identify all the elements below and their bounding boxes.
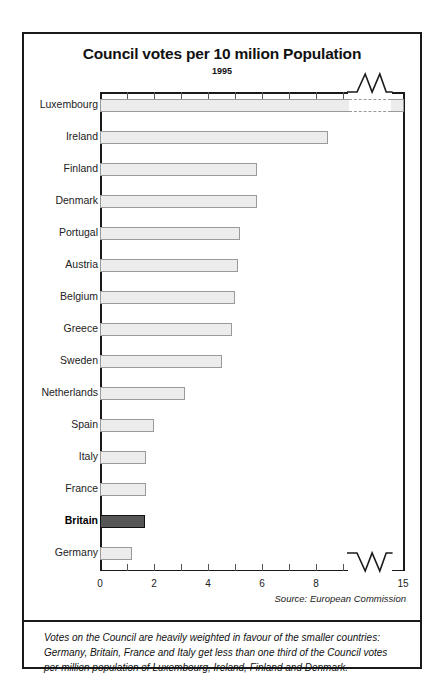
category-label-sweden: Sweden bbox=[0, 354, 98, 366]
plot-area: LuxembourgIrelandFinlandDenmarkPortugalA… bbox=[100, 92, 404, 571]
x-axis-tick bbox=[316, 564, 317, 571]
chart-figure: Council votes per 10 milion Population 1… bbox=[22, 32, 422, 669]
x-axis-tick bbox=[235, 564, 236, 571]
x-axis-tick-label: 15 bbox=[388, 578, 418, 589]
x-axis-tick bbox=[289, 564, 290, 571]
x-axis-tick bbox=[343, 564, 344, 571]
category-label-portugal: Portugal bbox=[0, 226, 98, 238]
x-axis-tick bbox=[262, 564, 263, 571]
chart-title: Council votes per 10 milion Population bbox=[24, 45, 420, 63]
category-label-britain: Britain bbox=[0, 514, 98, 526]
bar-austria bbox=[100, 259, 238, 272]
bar-luxembourg bbox=[100, 99, 349, 112]
x-axis-tick-label: 4 bbox=[193, 578, 223, 589]
category-label-austria: Austria bbox=[0, 258, 98, 270]
axis-break-top-icon bbox=[347, 73, 393, 93]
bar-sweden bbox=[100, 355, 222, 368]
x-axis-tick bbox=[154, 564, 155, 571]
axis-right-edge bbox=[403, 92, 405, 571]
bar-denmark bbox=[100, 195, 257, 208]
category-label-greece: Greece bbox=[0, 322, 98, 334]
bar-france bbox=[100, 483, 146, 496]
x-axis-tick bbox=[127, 564, 128, 571]
bar-netherlands bbox=[100, 387, 185, 400]
category-label-italy: Italy bbox=[0, 450, 98, 462]
source-note: Source: European Commission bbox=[275, 593, 406, 604]
bar-britain bbox=[100, 515, 145, 528]
x-axis-top-line bbox=[100, 92, 348, 94]
category-label-luxembourg: Luxembourg bbox=[0, 98, 98, 110]
bar-spain bbox=[100, 419, 154, 432]
category-label-denmark: Denmark bbox=[0, 194, 98, 206]
x-axis-tick-label: 2 bbox=[139, 578, 169, 589]
bar-belgium bbox=[100, 291, 235, 304]
x-axis-tick-label: 0 bbox=[85, 578, 115, 589]
bar-italy bbox=[100, 451, 146, 464]
x-axis-tick-label: 6 bbox=[247, 578, 277, 589]
bar-luxembourg-continued bbox=[391, 99, 404, 112]
category-label-ireland: Ireland bbox=[0, 130, 98, 142]
bar-ireland bbox=[100, 131, 328, 144]
x-axis-tick bbox=[181, 564, 182, 571]
category-label-germany: Germany bbox=[0, 546, 98, 558]
caption-text: Votes on the Council are heavily weighte… bbox=[44, 630, 404, 676]
x-axis-bottom-line bbox=[100, 570, 348, 572]
x-axis-tick bbox=[208, 564, 209, 571]
category-label-finland: Finland bbox=[0, 162, 98, 174]
category-label-spain: Spain bbox=[0, 418, 98, 430]
bar-finland bbox=[100, 163, 257, 176]
bar-greece bbox=[100, 323, 232, 336]
bar-break-gap bbox=[349, 99, 391, 112]
x-axis-tick-label: 8 bbox=[301, 578, 331, 589]
bar-germany bbox=[100, 547, 132, 560]
axis-break-bottom-icon bbox=[347, 552, 393, 572]
category-label-belgium: Belgium bbox=[0, 290, 98, 302]
caption-divider bbox=[24, 620, 420, 622]
bar-portugal bbox=[100, 227, 240, 240]
category-label-france: France bbox=[0, 482, 98, 494]
category-label-netherlands: Netherlands bbox=[0, 386, 98, 398]
